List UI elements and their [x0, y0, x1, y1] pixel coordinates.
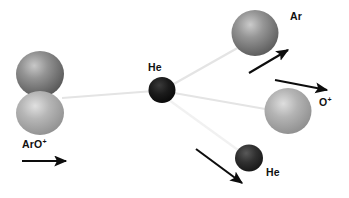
label-he-product: He	[266, 167, 280, 178]
label-aro-plus-text: ArO	[22, 138, 42, 150]
sphere-ar-product	[232, 10, 279, 56]
label-ar-product: Ar	[290, 11, 302, 22]
label-o-plus-charge: +	[327, 96, 331, 103]
collision-diagram-canvas: ArO+ He Ar O+ He	[0, 0, 349, 198]
label-he-target: He	[148, 62, 162, 73]
trajectory-outgoing-he	[169, 100, 238, 150]
sphere-o-reactant	[16, 91, 64, 135]
label-aro-plus-charge: +	[42, 138, 46, 145]
trajectory-outgoing-ar	[172, 46, 241, 85]
sphere-o-plus-product	[265, 88, 312, 134]
sphere-ar-reactant	[16, 51, 64, 97]
sphere-he-target	[149, 77, 176, 103]
label-aro-plus: ArO+	[22, 139, 47, 150]
label-o-plus-product: O+	[319, 97, 332, 108]
sphere-he-product	[235, 145, 263, 172]
particle-spheres	[16, 10, 312, 172]
collision-diagram-svg	[0, 0, 349, 198]
velocity-arrow-he	[196, 149, 242, 183]
trajectory-outgoing-o-plus	[174, 93, 271, 110]
trajectory-incoming-beam	[62, 91, 154, 98]
velocity-arrow-o-plus	[275, 80, 327, 90]
